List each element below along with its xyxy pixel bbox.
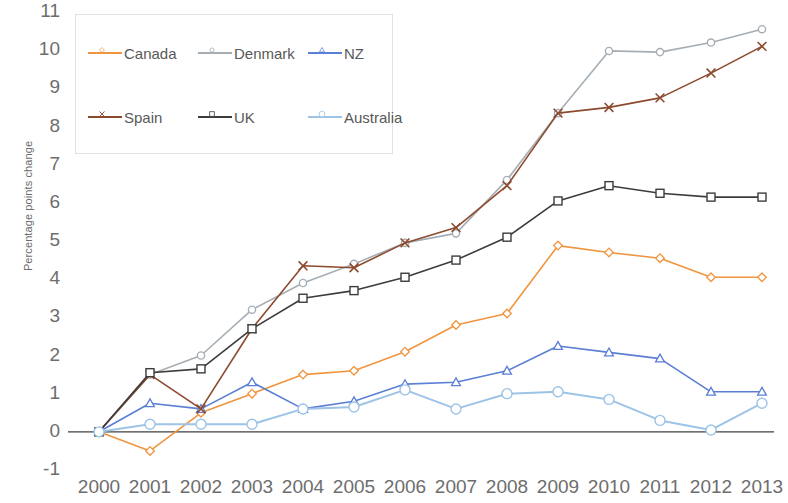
x-tick-2006: 2006 bbox=[377, 477, 433, 496]
x-tick-2005: 2005 bbox=[326, 477, 382, 496]
data-point-marker bbox=[707, 39, 714, 46]
legend-label: Australia bbox=[344, 109, 402, 126]
legend-label: NZ bbox=[344, 45, 364, 62]
data-point-marker bbox=[758, 42, 767, 51]
legend-marker-icon bbox=[308, 46, 342, 60]
y-tick-4: 4 bbox=[22, 268, 60, 287]
y-tick-9: 9 bbox=[22, 77, 60, 96]
data-point-marker bbox=[656, 48, 663, 55]
data-point-marker bbox=[707, 69, 716, 78]
y-tick-6: 6 bbox=[22, 192, 60, 211]
data-point-marker bbox=[319, 111, 325, 117]
data-point-marker bbox=[503, 233, 511, 241]
data-point-marker bbox=[656, 189, 664, 197]
legend-label: Spain bbox=[124, 109, 162, 126]
data-point-marker bbox=[656, 254, 665, 263]
legend-item-nz[interactable]: NZ bbox=[308, 43, 364, 63]
data-point-marker bbox=[350, 366, 359, 375]
legend-marker-glyph bbox=[208, 110, 216, 118]
data-point-marker bbox=[605, 182, 613, 190]
x-tick-2010: 2010 bbox=[581, 477, 637, 496]
y-tick-3: 3 bbox=[22, 306, 60, 325]
data-point-marker bbox=[210, 112, 215, 117]
y-tick-2: 2 bbox=[22, 345, 60, 364]
data-point-marker bbox=[758, 193, 766, 201]
data-point-marker bbox=[247, 419, 257, 429]
data-point-marker bbox=[319, 47, 324, 51]
data-point-marker bbox=[605, 47, 612, 54]
data-point-marker bbox=[248, 306, 255, 313]
x-tick-2009: 2009 bbox=[530, 477, 586, 496]
x-tick-2008: 2008 bbox=[479, 477, 535, 496]
legend-marker-glyph bbox=[98, 46, 106, 54]
data-point-marker bbox=[145, 419, 155, 429]
data-point-marker bbox=[401, 347, 410, 356]
data-point-marker bbox=[452, 256, 460, 264]
x-tick-2013: 2013 bbox=[734, 477, 788, 496]
data-point-marker bbox=[605, 248, 614, 257]
y-tick-1: 1 bbox=[22, 383, 60, 402]
data-point-marker bbox=[604, 394, 614, 404]
data-point-marker bbox=[758, 26, 765, 33]
data-point-marker bbox=[299, 279, 306, 286]
legend-marker-icon bbox=[88, 46, 122, 60]
data-point-marker bbox=[299, 294, 307, 302]
data-point-marker bbox=[248, 378, 257, 386]
series-australia bbox=[94, 385, 767, 437]
data-point-marker bbox=[248, 389, 257, 398]
legend-label: Denmark bbox=[234, 45, 295, 62]
data-point-marker bbox=[210, 48, 214, 52]
data-point-marker bbox=[553, 387, 563, 397]
data-point-marker bbox=[757, 398, 767, 408]
data-point-marker bbox=[350, 287, 358, 295]
y-tick-0: 0 bbox=[22, 421, 60, 440]
data-point-marker bbox=[707, 273, 716, 282]
legend-marker-glyph bbox=[318, 110, 326, 118]
y-tick-7: 7 bbox=[22, 154, 60, 173]
data-point-marker bbox=[99, 111, 104, 116]
data-point-marker bbox=[401, 273, 409, 281]
data-point-marker bbox=[100, 48, 105, 53]
data-point-marker bbox=[502, 389, 512, 399]
x-tick-2001: 2001 bbox=[122, 477, 178, 496]
data-point-marker bbox=[451, 404, 461, 414]
data-point-marker bbox=[197, 352, 204, 359]
legend-item-spain[interactable]: Spain bbox=[88, 107, 162, 127]
data-point-marker bbox=[196, 419, 206, 429]
data-point-marker bbox=[707, 193, 715, 201]
x-tick-2000: 2000 bbox=[71, 477, 127, 496]
legend-marker-icon bbox=[198, 46, 232, 60]
data-point-marker bbox=[146, 369, 154, 377]
data-point-marker bbox=[248, 325, 256, 333]
legend-item-uk[interactable]: UK bbox=[198, 107, 255, 127]
legend-item-denmark[interactable]: Denmark bbox=[198, 43, 295, 63]
data-point-marker bbox=[197, 365, 205, 373]
series-line bbox=[99, 186, 762, 432]
legend-marker-glyph bbox=[318, 46, 326, 54]
series-uk bbox=[95, 182, 766, 436]
legend-label: Canada bbox=[124, 45, 177, 62]
y-axis-tick-labels: 11109876543210-1 bbox=[0, 0, 60, 503]
legend-item-canada[interactable]: Canada bbox=[88, 43, 177, 63]
data-point-marker bbox=[298, 404, 308, 414]
y-tick-5: 5 bbox=[22, 230, 60, 249]
x-tick-2012: 2012 bbox=[683, 477, 739, 496]
data-point-marker bbox=[299, 370, 308, 379]
chart-legend: CanadaDenmarkNZSpainUKAustralia bbox=[75, 14, 393, 154]
y-tick-10: 10 bbox=[22, 39, 60, 58]
x-tick-2002: 2002 bbox=[173, 477, 229, 496]
data-point-marker bbox=[349, 402, 359, 412]
x-tick-2011: 2011 bbox=[632, 477, 688, 496]
data-point-marker bbox=[554, 197, 562, 205]
data-point-marker bbox=[706, 425, 716, 435]
legend-marker-icon bbox=[198, 110, 232, 124]
legend-label: UK bbox=[234, 109, 255, 126]
x-tick-2004: 2004 bbox=[275, 477, 331, 496]
x-axis-tick-labels: 2000200120022003200420052006200720082009… bbox=[0, 470, 788, 503]
data-point-marker bbox=[452, 321, 461, 330]
legend-item-australia[interactable]: Australia bbox=[308, 107, 402, 127]
y-tick-8: 8 bbox=[22, 116, 60, 135]
legend-marker-icon bbox=[88, 110, 122, 124]
x-tick-2003: 2003 bbox=[224, 477, 280, 496]
legend-marker-glyph bbox=[208, 46, 216, 54]
